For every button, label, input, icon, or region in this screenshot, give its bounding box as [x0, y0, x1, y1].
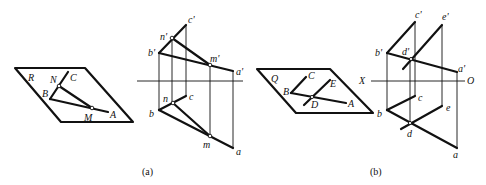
- top-line-ba: [159, 110, 233, 148]
- caption-b: (b): [370, 166, 382, 178]
- label-e-prime: e': [442, 11, 449, 22]
- top-line-ba: [387, 110, 457, 148]
- label-b-top: b: [149, 108, 154, 119]
- label-axis-x: X: [358, 75, 366, 86]
- figure-b-perspective: Q C B E D A: [257, 69, 373, 113]
- top-line-cb: [387, 96, 415, 110]
- label-plane-r: R: [27, 72, 34, 83]
- label-d-top: d: [407, 128, 413, 139]
- label-e: E: [329, 78, 336, 89]
- label-c: C: [308, 70, 315, 81]
- label-b-top: b: [377, 108, 382, 119]
- label-axis-o: O: [467, 75, 474, 86]
- point-m-top: [208, 134, 212, 138]
- label-c-prime: c': [188, 14, 195, 25]
- label-b-prime: b': [148, 47, 156, 58]
- label-b: B: [283, 86, 289, 97]
- point-m: [90, 106, 94, 110]
- label-a-top: a: [453, 149, 458, 160]
- label-n-top: n: [163, 93, 168, 104]
- point-n: [57, 84, 61, 88]
- point-d-prime: [409, 57, 412, 60]
- label-plane-q: Q: [271, 73, 279, 84]
- point-n-top: [171, 101, 175, 105]
- figure-a-perspective: R N C B M A: [15, 68, 133, 123]
- front-line-ba: [387, 53, 457, 72]
- label-m-top: m: [203, 139, 210, 150]
- label-d-prime: d': [402, 46, 410, 57]
- label-c-top: c: [189, 91, 194, 102]
- label-c-top: c: [418, 92, 423, 103]
- figure-a-projection: c' n' b' m' a' n c b m a: [137, 14, 244, 157]
- label-e-top: e: [446, 102, 451, 113]
- label-c: C: [70, 72, 77, 83]
- label-b: B: [42, 88, 48, 99]
- label-a-prime: a': [458, 63, 466, 74]
- line-ba: [291, 93, 346, 103]
- figure-b-projection: X O c' e' b' d' a' c e b d a: [358, 9, 474, 160]
- label-n-prime: n': [160, 31, 168, 42]
- label-a-prime: a': [236, 66, 244, 77]
- label-a: A: [347, 98, 355, 109]
- label-d: D: [310, 99, 319, 110]
- caption-a: (a): [142, 166, 153, 178]
- line-cb: [291, 77, 306, 93]
- label-a: A: [109, 109, 117, 120]
- diagram-canvas: R N C B M A c' n' b' m' a' n c b m: [0, 0, 486, 185]
- label-n: N: [49, 74, 58, 85]
- front-line-cb: [387, 22, 415, 53]
- label-m-prime: m': [210, 53, 220, 64]
- top-line-ed: [401, 106, 442, 129]
- label-c-prime: c': [415, 9, 422, 20]
- point-d-top: [408, 121, 411, 124]
- label-m: M: [83, 112, 93, 123]
- point-n-prime: [170, 36, 174, 40]
- line-ba: [50, 99, 108, 112]
- label-a-top: a: [236, 146, 241, 157]
- label-b-prime: b': [375, 47, 383, 58]
